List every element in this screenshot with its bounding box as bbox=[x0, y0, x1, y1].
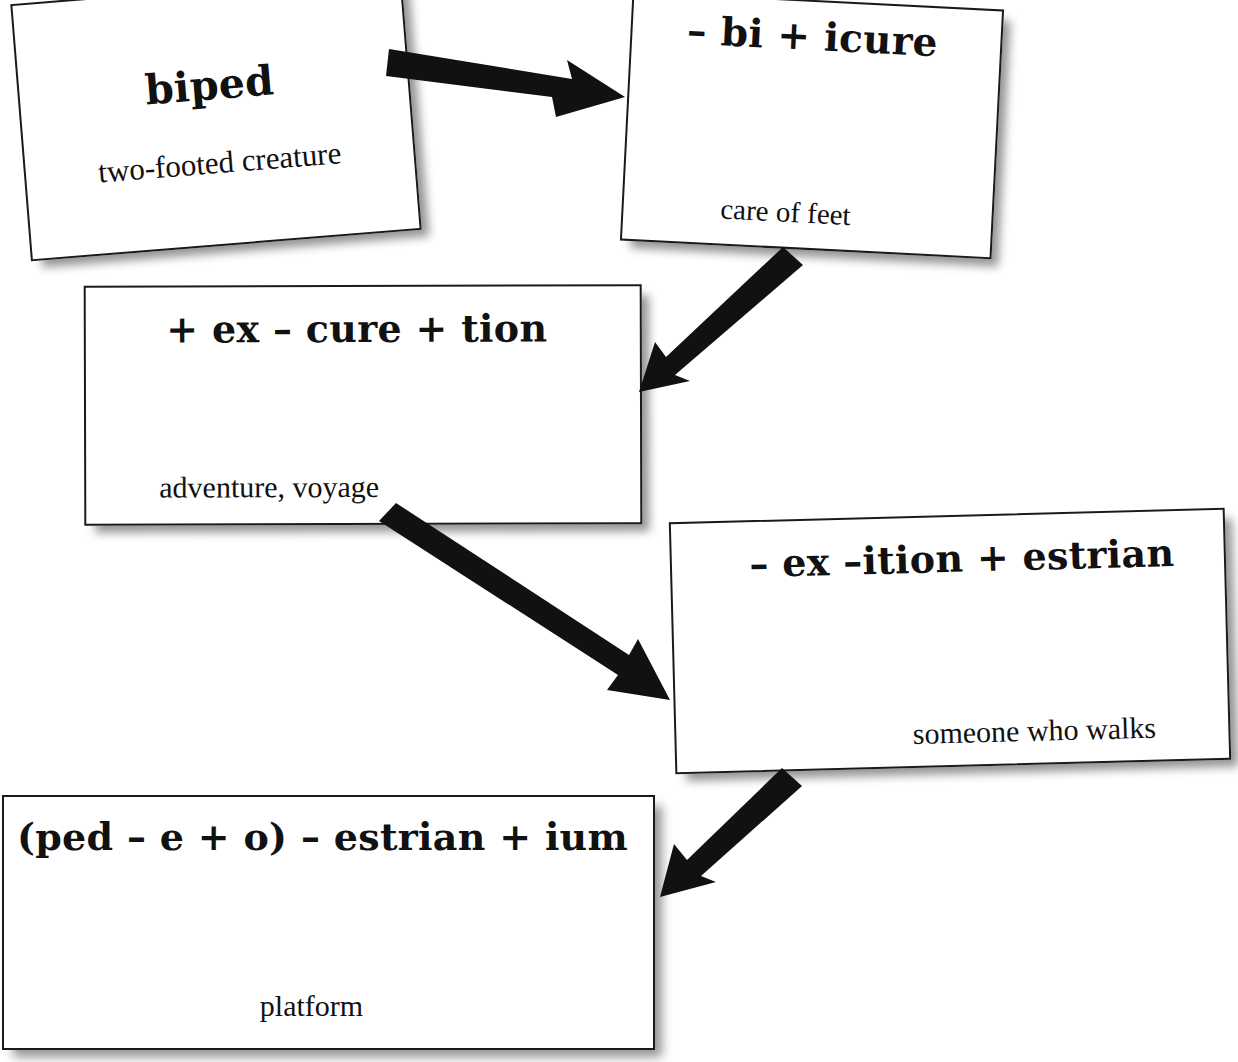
flashcard-title: + ex – cure + tion bbox=[166, 309, 547, 350]
flashcard-podium[interactable]: (ped – e + o) – estrian + ium platform bbox=[2, 795, 655, 1050]
flashcard-pedicure[interactable]: – bi + icure care of feet bbox=[620, 0, 1004, 259]
flashcard-expedition[interactable]: + ex – cure + tion adventure, voyage bbox=[84, 284, 643, 525]
arrow-card2-to-card3 bbox=[639, 247, 803, 392]
flashcard-pedestrian[interactable]: – ex –ition + estrian someone who walks bbox=[669, 508, 1231, 774]
flashcard-title: (ped – e + o) – estrian + ium bbox=[17, 817, 628, 857]
flashcard-title: biped bbox=[143, 59, 275, 112]
flashcard-body: (ped – e + o) – estrian + ium platform bbox=[4, 797, 653, 1048]
flashcard-body: + ex – cure + tion adventure, voyage bbox=[86, 286, 641, 523]
flashcard-definition: platform bbox=[260, 989, 363, 1022]
flashcard-body: biped two-footed creature bbox=[12, 0, 419, 259]
flashcard-definition: someone who walks bbox=[912, 711, 1156, 750]
arrow-card4-to-card5 bbox=[660, 768, 802, 897]
diagram-canvas: biped two-footed creature – bi + icure c… bbox=[0, 0, 1238, 1062]
flashcard-title: – ex –ition + estrian bbox=[749, 533, 1175, 584]
flashcard-body: – ex –ition + estrian someone who walks bbox=[671, 510, 1229, 772]
flashcard-definition: care of feet bbox=[720, 194, 852, 232]
flashcard-biped[interactable]: biped two-footed creature bbox=[10, 0, 421, 261]
flashcard-definition: adventure, voyage bbox=[159, 470, 379, 504]
flashcard-title: – bi + icure bbox=[686, 10, 939, 64]
arrow-card1-to-card2 bbox=[386, 49, 625, 117]
arrow-card3-to-card4 bbox=[379, 503, 670, 700]
flashcard-definition: two-footed creature bbox=[97, 136, 343, 190]
flashcard-body: – bi + icure care of feet bbox=[622, 0, 1002, 257]
